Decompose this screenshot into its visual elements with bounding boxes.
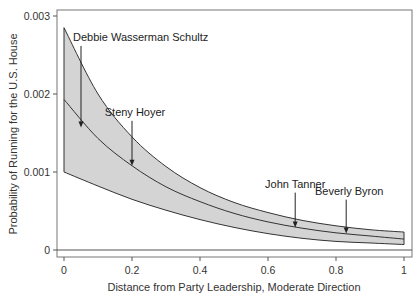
annotation-label: Steny Hoyer [105, 106, 166, 118]
x-axis: 00.20.40.60.81 [61, 257, 407, 276]
confidence-band [64, 28, 404, 245]
annotation-label: Beverly Byron [315, 185, 383, 197]
y-axis: 00.0010.0020.003 [24, 10, 57, 256]
chart: 00.0010.0020.003 00.20.40.60.81 Debbie W… [0, 0, 419, 297]
band-fill [64, 28, 404, 245]
y-axis-title: Probability of Running for the U.S. Hous… [7, 33, 19, 234]
y-tick-label: 0.001 [24, 166, 50, 178]
x-tick-label: 0 [61, 264, 67, 276]
y-tick-label: 0.003 [24, 10, 50, 22]
x-tick-label: 0.6 [261, 264, 276, 276]
annotation-label: Debbie Wasserman Schultz [73, 31, 208, 43]
x-tick-label: 1 [401, 264, 407, 276]
y-tick-label: 0 [44, 244, 50, 256]
x-tick-label: 0.2 [125, 264, 140, 276]
x-tick-label: 0.4 [193, 264, 208, 276]
x-tick-label: 0.8 [329, 264, 344, 276]
x-axis-title: Distance from Party Leadership, Moderate… [107, 281, 360, 293]
y-tick-label: 0.002 [24, 88, 50, 100]
